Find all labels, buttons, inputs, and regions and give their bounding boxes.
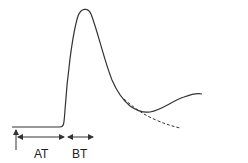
curve-diagram: AT BT	[0, 0, 248, 163]
diagram-canvas: AT BT	[0, 0, 248, 163]
at-label: AT	[34, 147, 49, 161]
concentration-curve	[12, 9, 202, 127]
bt-label: BT	[72, 147, 88, 161]
